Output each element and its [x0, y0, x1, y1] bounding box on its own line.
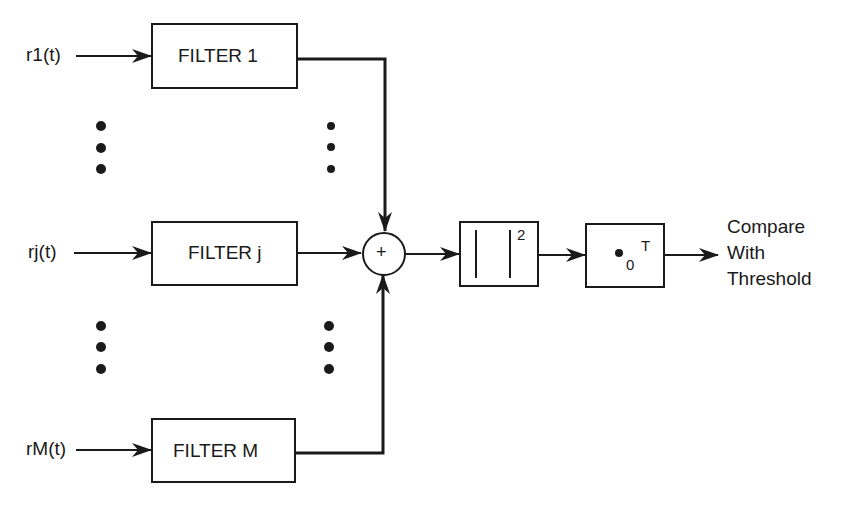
integral-symbol-dot	[615, 249, 623, 257]
filter-m-label: FILTER M	[173, 440, 258, 462]
filter-1-output-line	[297, 59, 385, 231]
filter-j-label: FILTER j	[188, 242, 262, 264]
ellipsis-lower-left	[96, 321, 106, 374]
input-label-rm: rM(t)	[26, 438, 66, 460]
square-exponent: 2	[517, 226, 525, 243]
magnitude-squared-box	[460, 222, 538, 286]
input-label-r1: r1(t)	[26, 44, 61, 66]
output-line-2: With	[727, 240, 812, 266]
filter-m-output-line	[295, 275, 383, 453]
integral-lower-limit: 0	[626, 256, 634, 273]
ellipsis-upper-right	[327, 122, 335, 173]
output-line-3: Threshold	[727, 266, 812, 292]
filter-1-label: FILTER 1	[178, 45, 258, 67]
integrator-box	[586, 224, 664, 287]
integral-upper-limit: T	[641, 237, 650, 254]
output-label: Compare With Threshold	[727, 214, 812, 292]
ellipsis-lower-right	[324, 321, 334, 374]
input-label-rj: rj(t)	[28, 241, 56, 263]
summer-plus-sign: +	[376, 242, 387, 263]
output-line-1: Compare	[727, 214, 812, 240]
ellipsis-upper-left	[96, 121, 106, 174]
